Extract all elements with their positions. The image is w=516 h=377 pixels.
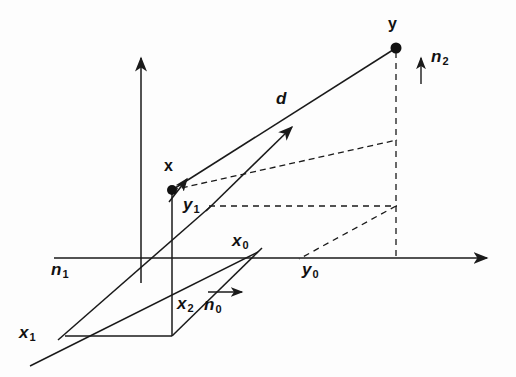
label-coord-y1-subscript: 1 <box>193 203 199 215</box>
label-normal-n1: n1 <box>51 261 68 278</box>
label-coord-x1-subscript: 1 <box>29 331 35 343</box>
axis-depth-upper <box>58 207 210 340</box>
label-normal-n1-base: n <box>51 260 61 279</box>
label-coord-x1-base: x <box>19 323 28 342</box>
label-coord-x2-base: x <box>177 294 186 313</box>
diagram-canvas: x y d n0 n1 n2 x0 x1 x2 y0 y1 <box>0 0 516 377</box>
label-coord-x0: x0 <box>232 232 248 249</box>
label-coord-y0-subscript: 0 <box>312 268 318 280</box>
label-coord-x2: x2 <box>177 295 193 312</box>
label-coord-y1: y1 <box>183 196 199 213</box>
label-coord-x2-subscript: 2 <box>187 302 193 314</box>
label-normal-n0-subscript: 0 <box>215 303 221 315</box>
label-coord-x0-subscript: 0 <box>242 239 248 251</box>
label-distance-d: d <box>276 90 286 107</box>
label-coord-y1-base: y <box>183 195 192 214</box>
label-normal-n0: n0 <box>204 296 221 313</box>
label-point-x: x <box>164 158 173 174</box>
point-x-marker <box>167 185 177 195</box>
label-coord-y0-base: y <box>302 260 311 279</box>
label-normal-n2-subscript: 2 <box>442 55 448 67</box>
vector-d-line <box>172 48 396 190</box>
label-coord-x0-base: x <box>232 231 241 250</box>
label-normal-n0-base: n <box>204 295 214 314</box>
dashed-y0-diagonal <box>299 206 396 259</box>
label-normal-n2-base: n <box>431 47 441 66</box>
label-coord-y0: y0 <box>302 261 318 278</box>
point-y-marker <box>391 43 402 54</box>
label-normal-n2: n2 <box>431 48 448 65</box>
vector-d-projection-dashed <box>172 140 397 190</box>
label-coord-x1: x1 <box>19 324 35 341</box>
label-normal-n1-subscript: 1 <box>62 268 68 280</box>
vector-inner-arrow <box>206 127 292 211</box>
label-point-y: y <box>388 16 397 32</box>
